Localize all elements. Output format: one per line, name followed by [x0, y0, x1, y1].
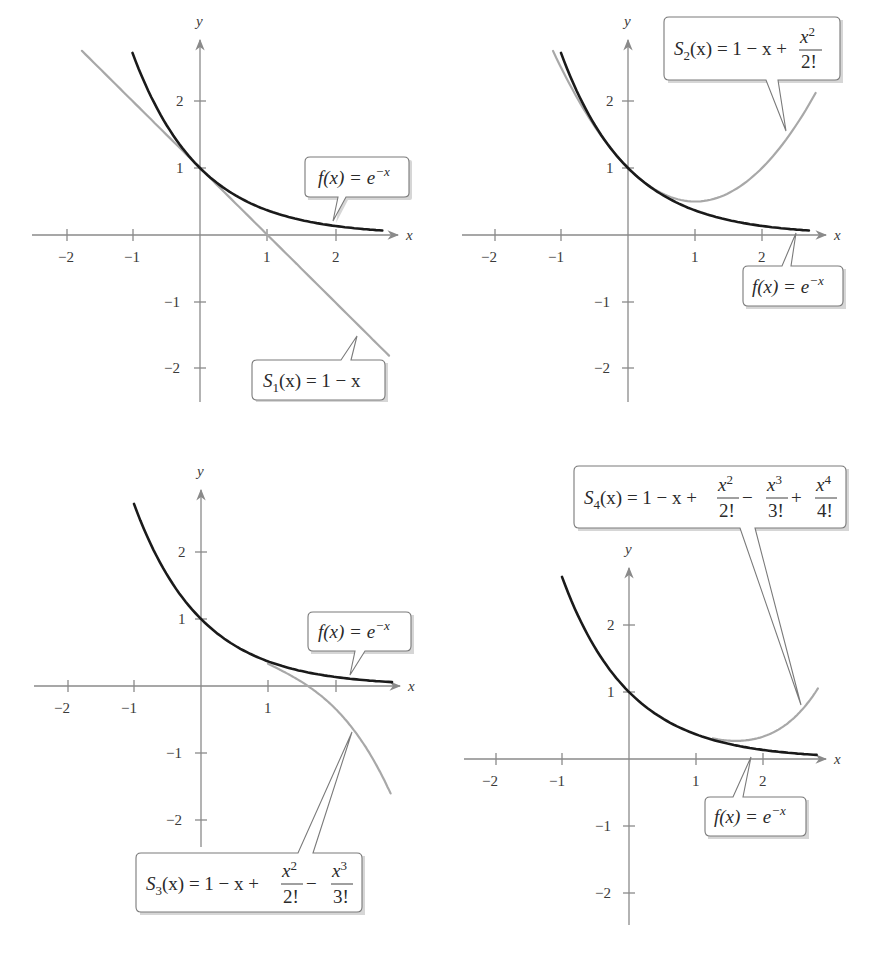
svg-text:4!: 4!	[817, 500, 833, 521]
svg-text:2: 2	[606, 93, 614, 109]
svg-text:−1: −1	[548, 249, 564, 265]
svg-text:−2: −2	[54, 700, 70, 716]
f-callout: f(x) = e−x	[308, 612, 414, 675]
svg-text:−2: −2	[58, 249, 74, 265]
s4-curve	[713, 688, 818, 741]
svg-text:2: 2	[332, 249, 340, 265]
y-axis-label: y	[194, 13, 203, 29]
svg-text:1: 1	[264, 700, 272, 716]
f-curve	[134, 504, 392, 682]
panel-s4: x y −2 −1 1 2 2 1 −1 −2 S4(x) = 1 − x + …	[464, 466, 849, 925]
taylor-approximation-figure: x y −2 −1 1 2 2 1 −1 −2 f(x) = e−x S1(x)…	[0, 0, 872, 957]
svg-text:1: 1	[606, 160, 614, 176]
svg-text:−1: −1	[124, 249, 140, 265]
svg-text:2: 2	[758, 249, 766, 265]
panel-s3: x y −2 −1 1 2 1 −1 −2 f(x) = e−x S3(x) =…	[34, 463, 415, 915]
svg-text:2: 2	[176, 93, 184, 109]
f-callout: f(x) = e−x	[305, 157, 412, 223]
y-axis-label: y	[622, 13, 631, 29]
svg-text:3!: 3!	[768, 500, 784, 521]
f-curve	[562, 577, 817, 755]
svg-text:−1: −1	[164, 294, 180, 310]
s2-callout: S2(x) = 1 − x + x2 2!	[664, 17, 843, 131]
svg-text:1: 1	[176, 160, 184, 176]
svg-text:−1: −1	[166, 745, 182, 761]
s1-callout: S1(x) = 1 − x	[252, 336, 388, 402]
s4-callout: S4(x) = 1 − x + x2 2! − x3 3! + x4 4!	[574, 466, 849, 705]
svg-text:2!: 2!	[801, 51, 817, 72]
svg-text:1: 1	[607, 684, 615, 700]
svg-text:1: 1	[692, 773, 700, 789]
svg-text:−2: −2	[166, 812, 182, 828]
svg-text:−: −	[742, 487, 753, 508]
x-axis-label: x	[407, 678, 415, 694]
svg-text:−2: −2	[594, 360, 610, 376]
svg-text:−1: −1	[594, 294, 610, 310]
svg-text:+: +	[791, 487, 802, 508]
svg-text:2!: 2!	[719, 500, 735, 521]
s3-curve	[268, 664, 391, 794]
svg-text:2!: 2!	[283, 886, 299, 907]
svg-text:3!: 3!	[333, 886, 349, 907]
svg-text:2: 2	[759, 773, 767, 789]
svg-text:2: 2	[607, 617, 615, 633]
svg-text:−1: −1	[121, 700, 137, 716]
x-axis-label: x	[405, 227, 413, 243]
y-axis-label: y	[195, 463, 204, 479]
svg-text:2: 2	[178, 544, 186, 560]
svg-text:−2: −2	[164, 360, 180, 376]
svg-text:1: 1	[263, 249, 271, 265]
panel-s1: x y −2 −1 1 2 2 1 −1 −2 f(x) = e−x S1(x)…	[32, 13, 413, 402]
svg-text:−2: −2	[595, 885, 611, 901]
svg-text:−1: −1	[595, 818, 611, 834]
y-axis-label: y	[623, 541, 632, 557]
svg-text:1: 1	[691, 249, 699, 265]
x-axis-label: x	[833, 227, 841, 243]
f-callout: f(x) = e−x	[743, 233, 846, 309]
x-axis-label: x	[833, 751, 841, 767]
svg-text:−: −	[306, 873, 317, 894]
f-callout: f(x) = e−x	[705, 757, 809, 839]
svg-text:1: 1	[178, 611, 186, 627]
svg-text:−2: −2	[482, 773, 498, 789]
svg-text:−2: −2	[481, 249, 497, 265]
panel-s2: x y −2 −1 1 2 2 1 −1 −2 S2(x) = 1 − x + …	[462, 13, 846, 402]
svg-text:−1: −1	[549, 773, 565, 789]
